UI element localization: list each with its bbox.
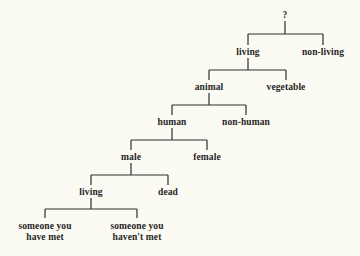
tree-edges xyxy=(0,0,360,256)
node-female: female xyxy=(193,152,221,163)
tree-diagram: ? living non-living animal vegetable hum… xyxy=(0,0,360,256)
node-dead: dead xyxy=(158,187,178,198)
node-non-human: non-human xyxy=(222,117,270,128)
node-animal: animal xyxy=(195,82,224,93)
node-vegetable: vegetable xyxy=(267,82,306,93)
node-someone-you-havent-met: someone you haven't met xyxy=(110,221,163,243)
node-living: living xyxy=(236,47,259,58)
node-non-living: non-living xyxy=(302,47,344,58)
node-male: male xyxy=(121,152,141,163)
node-someone-you-have-met: someone you have met xyxy=(18,221,71,243)
node-living-person: living xyxy=(79,187,102,198)
node-root: ? xyxy=(283,10,288,21)
node-human: human xyxy=(157,117,186,128)
